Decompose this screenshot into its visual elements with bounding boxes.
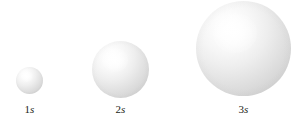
orbital-label-3s: 3s <box>220 103 267 115</box>
sphere-body-3s <box>196 1 291 96</box>
sphere-body-2s <box>92 41 149 98</box>
orbital-label-2s: 2s <box>97 103 144 115</box>
orbital-sphere-3s <box>196 1 291 96</box>
orbital-type-letter-2s: s <box>121 103 125 115</box>
orbital-sphere-1s <box>16 67 43 94</box>
orbital-type-letter-3s: s <box>244 103 248 115</box>
orbital-label-1s: 1s <box>6 103 53 115</box>
sphere-body-1s <box>16 67 43 94</box>
orbital-type-letter-1s: s <box>30 103 34 115</box>
orbital-sphere-2s <box>92 41 149 98</box>
orbital-size-figure: 1s 2s 3s <box>0 0 296 131</box>
